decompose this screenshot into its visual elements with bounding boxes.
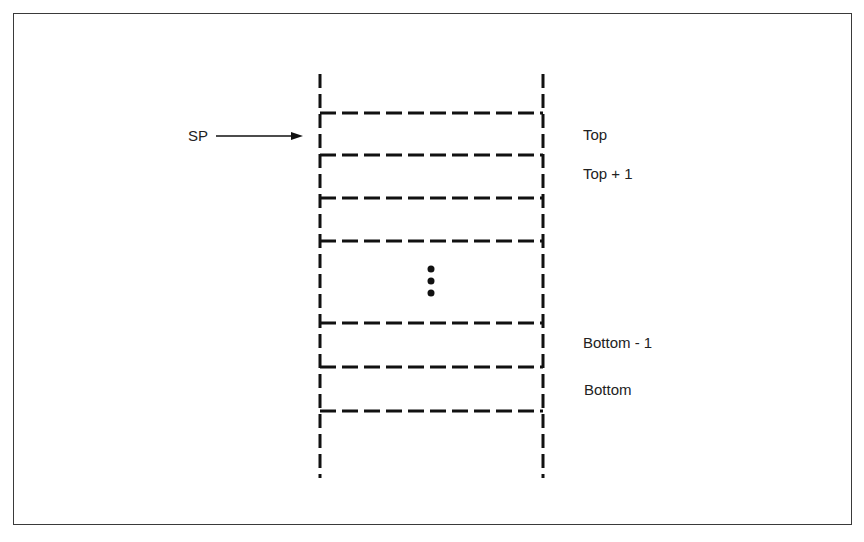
- slot-label-bottom: Bottom: [584, 381, 632, 398]
- sp-label: SP: [188, 127, 208, 144]
- stack-diagram: [0, 0, 864, 542]
- vertical-ellipsis-icon: [428, 266, 435, 297]
- sp-arrow-icon: [216, 132, 303, 140]
- slot-label-bottom-minus-1: Bottom - 1: [583, 334, 652, 351]
- slot-label-top-plus-1: Top + 1: [583, 165, 633, 182]
- slot-label-top: Top: [583, 126, 607, 143]
